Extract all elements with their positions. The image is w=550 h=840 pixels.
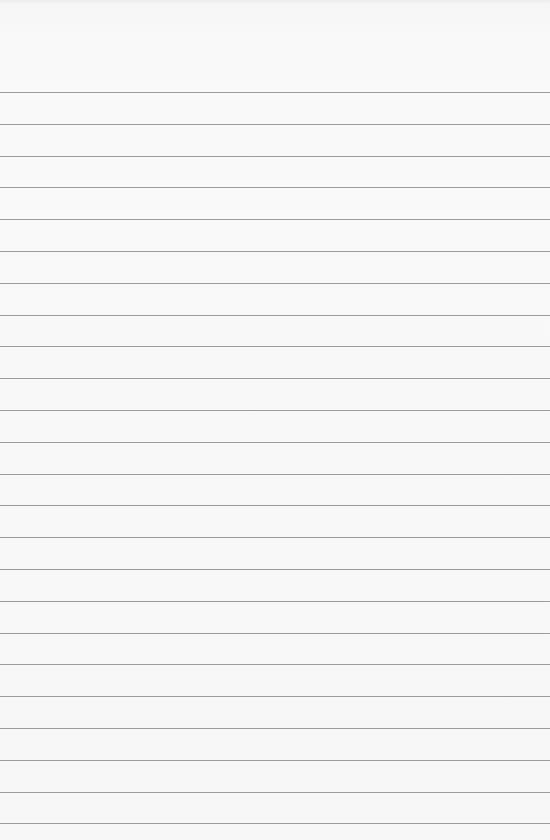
ruled-line [0,92,550,93]
ruled-line [0,792,550,793]
ruled-line [0,187,550,188]
ruled-line [0,569,550,570]
ruled-line [0,219,550,220]
ruled-line [0,124,550,125]
ruled-line [0,601,550,602]
ruled-line [0,760,550,761]
ruled-line [0,474,550,475]
ruled-line [0,346,550,347]
ruled-line [0,505,550,506]
ruled-line [0,283,550,284]
ruled-line [0,696,550,697]
ruled-line [0,410,550,411]
ruled-line [0,251,550,252]
ruled-line [0,442,550,443]
lined-paper [0,0,550,840]
ruled-line [0,633,550,634]
ruled-line [0,156,550,157]
ruled-line [0,378,550,379]
ruled-line [0,537,550,538]
ruled-line [0,315,550,316]
ruled-line [0,664,550,665]
ruled-line [0,823,550,824]
ruled-line [0,728,550,729]
